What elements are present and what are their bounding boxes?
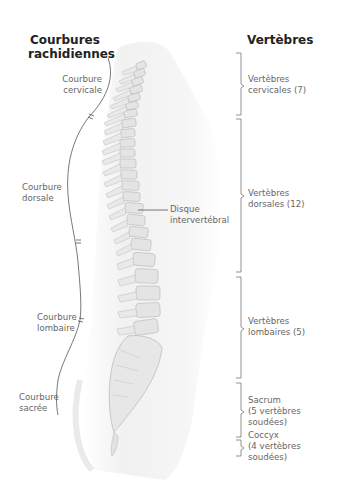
spine-diagram: Courbures rachidiennes Vertèbres Courbur… [0, 0, 337, 495]
curvature-tick-marks [76, 114, 94, 322]
vertebrae-label-coccyx: Coccyx (4 vertèbres soudées) [248, 430, 337, 463]
vertebrae-brackets [236, 53, 244, 456]
vertebrae-label-dorsal: Vertèbres dorsales (12) [248, 188, 305, 210]
disc-callout-label: Disque intervertébral [170, 204, 229, 226]
vertebrae-label-cervical: Vertèbres cervicales (7) [248, 74, 306, 96]
curvature-label-sacral: Courbure sacrée [19, 392, 59, 414]
curvature-label-cervical: Courbure cervicale [52, 74, 102, 96]
curvature-label-dorsal: Courbure dorsale [22, 182, 62, 204]
curvature-label-lumbar: Courbure lombaire [37, 312, 77, 334]
vertebrae-label-lumbar: Vertèbres lombaires (5) [248, 316, 305, 338]
curvatures-title: Courbures rachidiennes [30, 33, 115, 61]
vertebrae-label-sacrum: Sacrum (5 vertèbres soudées) [248, 395, 337, 428]
vertebrae-title: Vertèbres [247, 33, 313, 47]
